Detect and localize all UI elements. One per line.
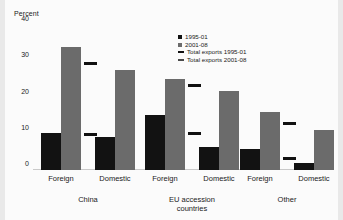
bar-eu-domestic-1995-01: [199, 147, 219, 170]
legend-square-dark-icon: [178, 35, 182, 39]
y-tick-20: 20: [21, 87, 29, 94]
bar-chart: Percent 40 30 20 10 0: [0, 0, 343, 220]
bar-other-domestic-1995-01: [294, 163, 314, 170]
page-edge-left: [0, 0, 5, 220]
legend-line-gray-icon: [178, 59, 184, 60]
bar-other-domestic-2001-08: [314, 130, 334, 170]
y-tick-30: 30: [21, 51, 29, 58]
bar-eu-domestic-2001-08: [219, 91, 239, 170]
group-label-eu-line2: countries: [169, 205, 215, 214]
legend-item-2001-08: 2001-08: [178, 41, 247, 49]
bar-china-foreign-2001-08: [61, 47, 81, 170]
legend-square-gray-icon: [178, 43, 182, 47]
legend-line-dark-icon: [178, 51, 184, 53]
group-label-eu-accession: EU accession countries: [169, 196, 215, 213]
x-label-other-domestic: Domestic: [298, 174, 329, 183]
subgroup-china-domestic: [95, 25, 135, 170]
legend-label-1995-01: 1995-01: [185, 33, 208, 41]
y-tick-0: 0: [25, 160, 29, 167]
bar-eu-foreign-1995-01: [145, 115, 165, 170]
bar-china-foreign-1995-01: [41, 133, 61, 170]
legend-item-total-exports-1995-01: Total exports 1995-01: [178, 48, 247, 56]
group-china: [41, 25, 135, 170]
page-edge-right: [338, 0, 343, 220]
bar-eu-foreign-2001-08: [165, 79, 185, 170]
y-tick-40: 40: [21, 15, 29, 22]
group-label-china: China: [78, 196, 98, 205]
bar-china-domestic-1995-01: [95, 137, 115, 170]
legend-item-1995-01: 1995-01: [178, 33, 247, 41]
bar-china-domestic-2001-08: [115, 70, 135, 170]
group-label-other-text: Other: [278, 195, 297, 204]
group-label-other: Other: [278, 196, 297, 205]
group-label-eu-line1: EU accession: [169, 195, 215, 204]
x-label-eu-domestic: Domestic: [203, 174, 234, 183]
subgroup-other-domestic: [294, 25, 334, 170]
legend-label-total-exports-1995-01: Total exports 1995-01: [187, 48, 247, 56]
x-label-other-foreign: Foreign: [247, 174, 272, 183]
bar-other-foreign-1995-01: [240, 149, 260, 170]
x-label-eu-foreign: Foreign: [152, 174, 177, 183]
legend-label-2001-08: 2001-08: [185, 41, 208, 49]
x-label-china-domestic: Domestic: [99, 174, 130, 183]
bar-other-foreign-2001-08: [260, 112, 280, 170]
x-label-china-foreign: Foreign: [48, 174, 73, 183]
subgroup-china-foreign: [41, 25, 81, 170]
y-tick-10: 10: [21, 123, 29, 130]
group-label-china-text: China: [78, 195, 98, 204]
legend-label-total-exports-2001-08: Total exports 2001-08: [187, 56, 247, 64]
legend: 1995-01 2001-08 Total exports 1995-01 To…: [178, 33, 247, 64]
legend-item-total-exports-2001-08: Total exports 2001-08: [178, 56, 247, 64]
group-other: [240, 25, 334, 170]
